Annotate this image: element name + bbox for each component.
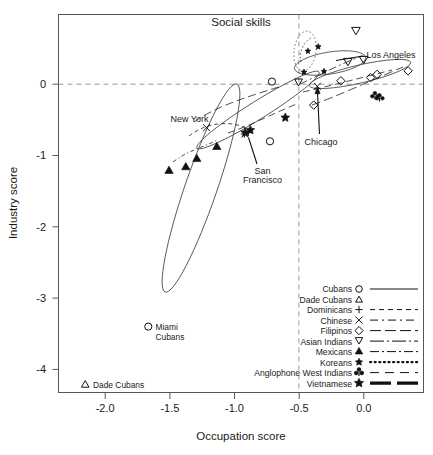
legend-label: Mexicans	[316, 347, 352, 357]
annotation-new-york: New York	[170, 114, 209, 124]
x-tick-label: 0.0	[356, 402, 371, 414]
x-tick-label: -1.0	[225, 402, 244, 414]
chart-background	[0, 0, 433, 455]
annotation-miami-line2: Cubans	[156, 332, 185, 342]
social-skills-scatter-plot: Social skills -2.0 -1.5 -1.0 -0.5 0.0 Oc…	[0, 0, 433, 455]
y-tick-label: -3	[36, 292, 46, 304]
legend-label: Dominicans	[307, 305, 352, 315]
annotation-los-angeles: Los Angeles	[367, 50, 417, 60]
chart-container: Social skills -2.0 -1.5 -1.0 -0.5 0.0 Oc…	[0, 0, 433, 455]
plot-title: Social skills	[211, 16, 271, 28]
x-tick-label: -2.0	[96, 402, 115, 414]
x-tick-label: -0.5	[290, 402, 309, 414]
annotation-miami-line1: Miami	[156, 322, 178, 332]
legend-label: Asian Indians	[300, 337, 352, 347]
legend-label: Dade Cubans	[299, 295, 352, 305]
legend-label: Anglophone West Indians	[254, 368, 352, 378]
legend-label: Vietnamese	[307, 379, 352, 389]
x-axis-title: Occupation score	[196, 430, 286, 442]
annotation-dade-cubans: Dade Cubans	[93, 380, 144, 390]
y-tick-label: -2	[36, 221, 46, 233]
y-tick-label: 0	[40, 78, 46, 90]
legend-label: Filipinos	[320, 326, 352, 336]
legend-label: Cubans	[322, 284, 352, 294]
x-tick-label: -1.5	[160, 402, 179, 414]
legend-label: Koreans	[320, 358, 352, 368]
annotation-san-francisco-line2: Francisco	[243, 175, 282, 185]
annotation-san-francisco-line1: San	[254, 166, 270, 176]
y-tick-label: -1	[36, 149, 46, 161]
legend-label: Chinese	[320, 316, 352, 326]
annotation-chicago: Chicago	[304, 137, 337, 147]
y-tick-label: -4	[36, 363, 46, 375]
y-axis-title: Industry score	[7, 167, 19, 239]
